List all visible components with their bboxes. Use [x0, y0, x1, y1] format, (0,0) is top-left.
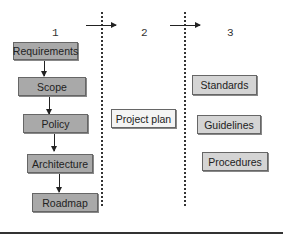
- column-number-3: 3: [227, 27, 234, 39]
- arrow-right-icon: [170, 25, 200, 26]
- arrow-down-icon: [54, 134, 55, 151]
- arrow-right-icon: [86, 25, 116, 26]
- box-procedures: Procedures: [202, 152, 268, 171]
- box-policy: Policy: [23, 114, 88, 133]
- box-architecture: Architecture: [27, 154, 93, 173]
- box-standards: Standards: [192, 75, 257, 95]
- column-number-1: 1: [52, 27, 59, 39]
- column-number-2: 2: [141, 27, 148, 39]
- box-scope: Scope: [18, 77, 86, 96]
- arrow-down-icon: [49, 97, 50, 114]
- bottom-rule: [0, 232, 283, 234]
- arrow-down-icon: [59, 174, 60, 192]
- box-requirements: Requirements: [13, 42, 78, 60]
- box-project-plan: Project plan: [111, 109, 176, 128]
- column-divider-2: [184, 12, 186, 206]
- column-divider-1: [101, 12, 103, 206]
- box-guidelines: Guidelines: [197, 115, 261, 134]
- arrow-down-icon: [44, 61, 45, 76]
- box-roadmap: Roadmap: [32, 193, 98, 212]
